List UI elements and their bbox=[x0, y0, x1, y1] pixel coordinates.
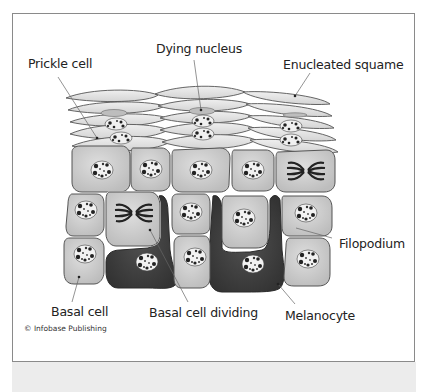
label-filopodium: Filopodium bbox=[339, 236, 405, 251]
label-enucleated-squame: Enucleated squame bbox=[283, 57, 403, 72]
dying-nucleus-shape bbox=[189, 108, 215, 115]
label-melanocyte: Melanocyte bbox=[285, 308, 355, 323]
label-prickle-cell: Prickle cell bbox=[28, 56, 92, 71]
label-dying-nucleus: Dying nucleus bbox=[156, 41, 242, 56]
copyright-credit: © Infobase Publishing bbox=[24, 324, 107, 333]
label-basal-cell: Basal cell bbox=[51, 304, 108, 319]
label-basal-cell-dividing: Basal cell dividing bbox=[149, 305, 258, 320]
